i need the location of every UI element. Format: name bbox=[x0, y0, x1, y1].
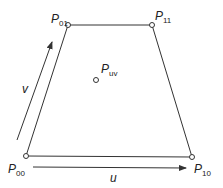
label-p11: P11 bbox=[155, 9, 172, 25]
bilinear-patch-diagram: P01 P11 Puv P00 P10 u v bbox=[0, 0, 223, 188]
edge-p10-p11 bbox=[152, 25, 192, 157]
label-p00: P00 bbox=[8, 162, 25, 178]
u-arrow bbox=[33, 167, 186, 168]
point-p00 bbox=[24, 154, 29, 159]
label-puv: Puv bbox=[101, 62, 117, 78]
point-p10 bbox=[190, 155, 195, 160]
edge-p01-p00 bbox=[26, 25, 68, 156]
edge-p00-p10 bbox=[26, 156, 192, 157]
label-p10: P10 bbox=[194, 162, 211, 178]
control-points bbox=[24, 23, 195, 160]
point-puv bbox=[94, 78, 99, 83]
label-v: v bbox=[22, 82, 29, 96]
point-p11 bbox=[150, 23, 155, 28]
label-u: u bbox=[110, 171, 117, 185]
label-p01: P01 bbox=[51, 12, 68, 28]
